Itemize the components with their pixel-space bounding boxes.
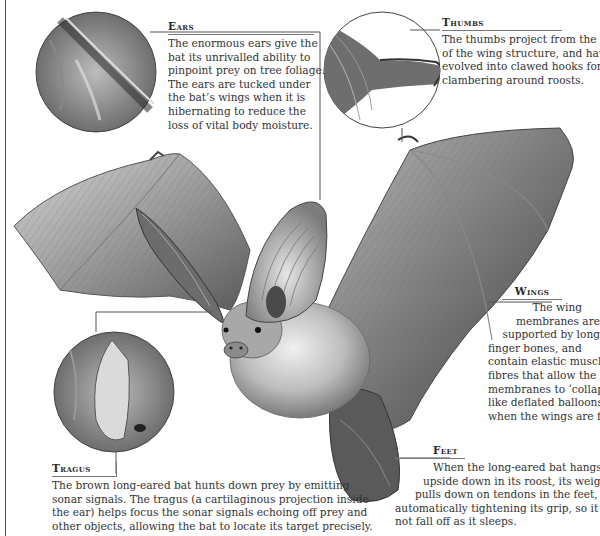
feet-callout: Feet When the long-eared bat hangs upsid… xyxy=(395,444,600,529)
wings-line: membranes to ‘collapse’ xyxy=(488,383,600,397)
ears-line: loss of vital body moisture. xyxy=(168,119,314,133)
tragus-line: the ear) helps focus the sonar signals e… xyxy=(52,506,334,520)
wings-text: The wing membranes are supported by long… xyxy=(488,301,600,423)
ears-line: the bat’s wings when it is xyxy=(168,91,314,105)
ears-line: The ears are tucked under xyxy=(168,78,314,92)
tragus-heading: Tragus xyxy=(52,462,117,477)
feet-line: pulls down on tendons in the feet, xyxy=(395,488,600,502)
feet-heading: Feet xyxy=(395,444,465,459)
thumbs-line: evolved into clawed hooks for xyxy=(442,60,600,74)
feet-line: When the long-eared bat hangs xyxy=(395,461,600,475)
wings-line: supported by long xyxy=(488,328,600,342)
tragus-leader-line xyxy=(96,312,212,332)
left-wing xyxy=(14,152,250,310)
page: Ears The enormous ears give the bat its … xyxy=(0,0,600,536)
ears-callout: Ears The enormous ears give the bat its … xyxy=(168,20,314,132)
wings-line: fibres that allow the xyxy=(488,369,600,383)
thumbs-line: The thumbs project from the front xyxy=(442,33,600,47)
ears-line: The enormous ears give the xyxy=(168,37,314,51)
ear-detail-inset xyxy=(36,12,156,132)
feet-text: When the long-eared bat hangs upside dow… xyxy=(395,461,600,529)
wings-line: contain elastic muscle xyxy=(488,355,600,369)
tragus-text: The brown long-eared bat hunts down prey… xyxy=(52,479,334,533)
feet-line: upside down in its roost, its weight xyxy=(395,475,600,489)
tragus-line: The brown long-eared bat hunts down prey… xyxy=(52,479,334,493)
bat-body xyxy=(222,302,370,418)
wings-line: membranes are xyxy=(488,315,600,329)
ears-text: The enormous ears give the bat its unriv… xyxy=(168,37,314,132)
feet-line: not fall off as it sleeps. xyxy=(395,515,600,529)
thumbs-heading: Thumbs xyxy=(442,16,562,31)
thumbs-callout: Thumbs The thumbs project from the front… xyxy=(442,16,600,87)
tragus-detail-inset xyxy=(54,332,174,452)
thumbs-line: clambering around roosts. xyxy=(442,74,600,88)
thumbs-text: The thumbs project from the front of the… xyxy=(442,33,600,87)
thumbs-line: of the wing structure, and have xyxy=(442,47,600,61)
wings-heading: Wings xyxy=(502,285,562,300)
feet-line: automatically tightening its grip, so it… xyxy=(395,502,600,516)
tragus-callout: Tragus The brown long-eared bat hunts do… xyxy=(52,462,334,533)
ears-heading: Ears xyxy=(168,20,314,35)
tragus-line: other objects, allowing the bat to locat… xyxy=(52,520,334,534)
wings-line: like deflated balloons xyxy=(488,396,600,410)
ears-line: pinpoint prey on tree foliage. xyxy=(168,64,314,78)
ears-line: hibernating to reduce the xyxy=(168,105,314,119)
wings-line: finger bones, and xyxy=(488,342,600,356)
wings-line: The wing xyxy=(488,301,600,315)
wings-callout: Wings The wing membranes are supported b… xyxy=(488,285,600,423)
ears-line: bat its unrivalled ability to xyxy=(168,51,314,65)
wings-line: when the wings are folded. xyxy=(488,410,600,424)
tragus-line: sonar signals. The tragus (a cartilagino… xyxy=(52,493,334,507)
